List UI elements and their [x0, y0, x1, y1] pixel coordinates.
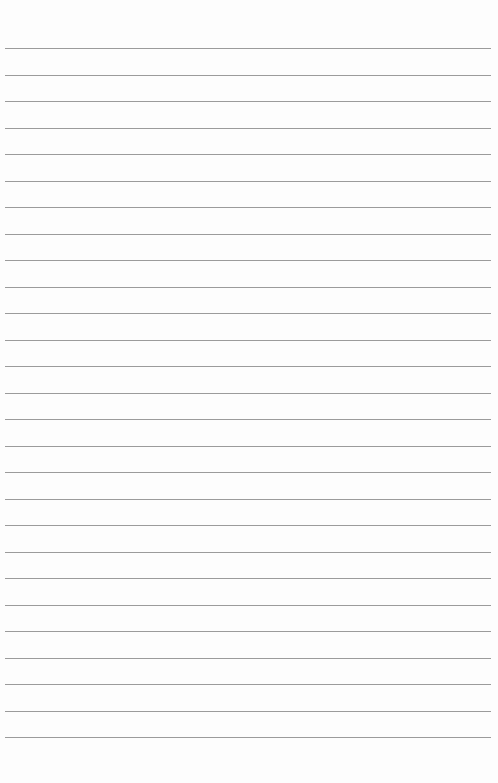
ruled-line — [5, 393, 491, 394]
ruled-line — [5, 419, 491, 420]
ruled-line — [5, 101, 491, 102]
ruled-line — [5, 684, 491, 685]
ruled-line — [5, 287, 491, 288]
ruled-line — [5, 181, 491, 182]
ruled-line — [5, 260, 491, 261]
ruled-line — [5, 711, 491, 712]
ruled-line — [5, 605, 491, 606]
ruled-line — [5, 446, 491, 447]
ruled-line — [5, 472, 491, 473]
ruled-line — [5, 75, 491, 76]
ruled-line — [5, 552, 491, 553]
ruled-line — [5, 631, 491, 632]
ruled-line — [5, 525, 491, 526]
ruled-line — [5, 737, 491, 738]
ruled-line — [5, 313, 491, 314]
ruled-line — [5, 154, 491, 155]
ruled-page — [0, 0, 498, 783]
ruled-line — [5, 128, 491, 129]
ruled-line — [5, 48, 491, 49]
ruled-line — [5, 366, 491, 367]
ruled-line — [5, 499, 491, 500]
ruled-line — [5, 340, 491, 341]
ruled-line — [5, 658, 491, 659]
ruled-line — [5, 207, 491, 208]
ruled-line — [5, 234, 491, 235]
ruled-line — [5, 578, 491, 579]
